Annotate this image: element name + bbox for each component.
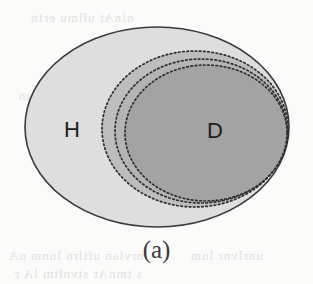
figure-caption: (a) (0, 236, 313, 264)
set-label-H: H (64, 117, 80, 142)
set-label-D: D (207, 118, 223, 143)
figure-root: nlnAt ullmu erIn lunrn tvpA ermn nrvlan … (0, 0, 313, 284)
set-ellipse-D (125, 65, 287, 201)
